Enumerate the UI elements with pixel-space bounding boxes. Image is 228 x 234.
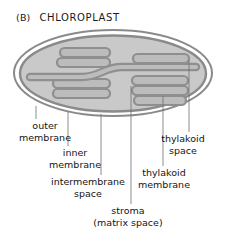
figure-panel: (B) CHLOROPLAST xyxy=(0,0,228,234)
leader-lines xyxy=(0,0,228,234)
